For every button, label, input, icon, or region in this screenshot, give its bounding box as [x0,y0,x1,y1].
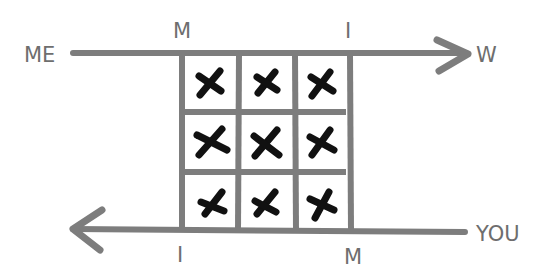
label-bottom-tick-i: I [177,243,183,267]
cell-mark-r2c3-icon [310,130,334,155]
top-arrow [73,40,468,71]
cell-mark-r3c1-icon [201,192,224,214]
label-w: W [476,43,497,67]
diagram-canvas: ME W M I YOU I M [0,0,547,276]
bottom-arrow [73,210,465,250]
cell-mark-r1c2-icon [257,72,277,93]
grid-vline-3 [295,53,296,231]
cell-mark-r3c3-icon [310,192,334,218]
grid-vline-2 [238,53,239,231]
label-me: ME [24,43,55,67]
grid-vline-4 [350,53,351,231]
cell-mark-r2c1-icon [197,129,227,155]
cell-mark-r1c3-icon [311,72,333,96]
cell-marks [197,71,334,218]
bottom-arrow-line [73,229,465,232]
cell-mark-r2c2-icon [254,130,279,156]
label-top-tick-m: M [173,19,191,43]
label-top-tick-i: I [345,19,351,43]
label-you: YOU [475,222,520,246]
cell-mark-r3c2-icon [255,192,276,214]
cell-mark-r1c1-icon [199,71,221,95]
label-bottom-tick-m: M [344,245,362,269]
